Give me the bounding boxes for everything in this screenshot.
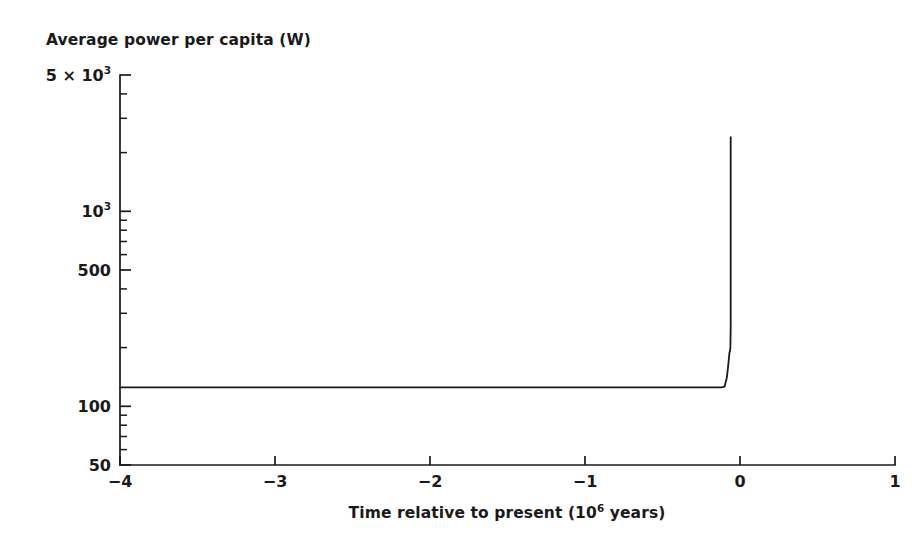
x-axis-title-suffix: years) bbox=[604, 504, 665, 522]
y-tick-label: 100 bbox=[78, 397, 111, 416]
x-tick-label: 0 bbox=[734, 472, 745, 491]
power-per-capita-log-line-chart: Average power per capita (W) 50100500103… bbox=[0, 0, 924, 543]
y-tick-label-exponent: 3 bbox=[104, 200, 111, 212]
x-axis-title-exponent: 6 bbox=[597, 502, 604, 514]
x-tick-label: −4 bbox=[108, 472, 133, 491]
x-tick-label: −1 bbox=[573, 472, 598, 491]
x-axis-title: Time relative to present (106 years) bbox=[349, 502, 666, 522]
y-tick-label: 5 × 103 bbox=[46, 64, 111, 85]
x-tick-label: −2 bbox=[418, 472, 443, 491]
chart-figure: Average power per capita (W) 50100500103… bbox=[0, 0, 924, 543]
x-tick-label: −3 bbox=[263, 472, 288, 491]
chart-background bbox=[0, 0, 924, 543]
y-tick-label-exponent: 3 bbox=[104, 64, 111, 76]
y-axis-title: Average power per capita (W) bbox=[46, 31, 311, 49]
y-tick-label: 500 bbox=[78, 261, 111, 280]
x-tick-label: 1 bbox=[889, 472, 900, 491]
